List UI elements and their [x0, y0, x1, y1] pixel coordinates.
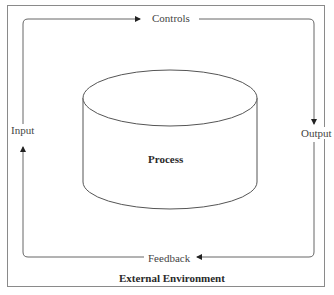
process-cylinder — [83, 70, 257, 209]
input-label: Input — [9, 124, 36, 136]
feedback-label: Feedback — [146, 252, 192, 264]
external-environment-label: External Environment — [117, 272, 227, 284]
output-label: Output — [299, 127, 334, 139]
process-label: Process — [146, 153, 185, 165]
process-loop-diagram — [0, 0, 334, 295]
controls-label: Controls — [150, 12, 192, 24]
